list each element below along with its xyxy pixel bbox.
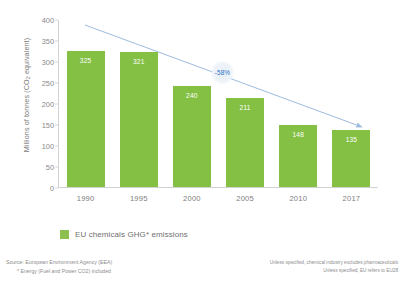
y-axis-tick-label: 0: [50, 184, 54, 193]
bar[interactable]: 240: [173, 86, 211, 187]
bar-slot: 1352017: [325, 20, 378, 187]
bar-value-label: 321: [120, 58, 158, 65]
source-note: Source: European Environment Agency (EEA…: [6, 258, 112, 275]
bar[interactable]: 211: [226, 98, 264, 187]
y-axis-tick-label: 300: [42, 58, 54, 67]
bar-group: 3251990321199524020002112005148201013520…: [59, 20, 378, 187]
bar-value-label: 211: [226, 104, 264, 111]
legend-swatch-icon: [60, 230, 69, 239]
y-axis-tick-label: 350: [42, 37, 54, 46]
y-axis-tick-mark: [55, 146, 58, 147]
x-axis-tick-label: 1990: [59, 194, 112, 203]
bar[interactable]: 135: [332, 130, 370, 187]
bar-slot: 3251990: [59, 20, 112, 187]
bar[interactable]: 325: [67, 51, 105, 188]
x-axis-tick-label: 2005: [219, 194, 272, 203]
y-axis-title-subscript: 2: [25, 76, 31, 79]
disclaimer-line-1: Unless specified, chemical industry excl…: [270, 259, 398, 267]
x-axis-tick-label: 2017: [325, 194, 378, 203]
y-axis-tick-mark: [55, 125, 58, 126]
chart-page: Millions of tonnes (CO2 equivalent) 0501…: [0, 0, 403, 286]
disclaimer-line-2: Unless specified, EU refers to EU28: [270, 267, 398, 275]
plot-area: 050100150200250300350400 325199032119952…: [58, 20, 378, 188]
y-axis-tick-mark: [55, 20, 58, 21]
y-axis-tick-label: 100: [42, 142, 54, 151]
legend: EU chemicals GHG* emissions: [60, 230, 188, 239]
y-axis-title-main: Millions of tonnes (CO: [22, 79, 31, 152]
bar-value-label: 325: [67, 57, 105, 64]
bar-slot: 2112005: [219, 20, 272, 187]
y-axis-tick-mark: [55, 188, 58, 189]
y-axis-tick-label: 200: [42, 100, 54, 109]
y-axis-tick-mark: [55, 41, 58, 42]
bar-value-label: 135: [332, 136, 370, 143]
legend-label: EU chemicals GHG* emissions: [75, 230, 188, 239]
x-axis-tick-label: 1995: [112, 194, 165, 203]
y-axis-tick-label: 150: [42, 121, 54, 130]
bar-slot: 1482010: [272, 20, 325, 187]
disclaimer-note: Unless specified, chemical industry excl…: [270, 259, 398, 275]
reduction-badge: -58%: [211, 61, 234, 84]
y-axis-tick-label: 250: [42, 79, 54, 88]
y-axis-tick-mark: [55, 167, 58, 168]
source-line-1: Source: European Environment Agency (EEA…: [6, 259, 112, 265]
y-axis-tick-mark: [55, 83, 58, 84]
y-axis-title-tail: equivalent): [22, 38, 31, 76]
x-axis-tick-label: 2000: [165, 194, 218, 203]
bar-slot: 2402000: [165, 20, 218, 187]
y-axis-tick-label: 400: [42, 16, 54, 25]
y-axis-title: Millions of tonnes (CO2 equivalent): [20, 20, 34, 170]
source-line-2: * Energy (Fuel and Power CO2) included: [6, 267, 112, 276]
bar[interactable]: 321: [120, 52, 158, 187]
bar-value-label: 148: [279, 131, 317, 138]
y-axis-tick-mark: [55, 104, 58, 105]
bar[interactable]: 148: [279, 125, 317, 187]
bar-slot: 3211995: [112, 20, 165, 187]
y-axis-tick-label: 50: [46, 163, 54, 172]
x-axis-line: [58, 187, 378, 188]
x-axis-tick-label: 2010: [272, 194, 325, 203]
bar-value-label: 240: [173, 92, 211, 99]
y-axis-tick-mark: [55, 62, 58, 63]
